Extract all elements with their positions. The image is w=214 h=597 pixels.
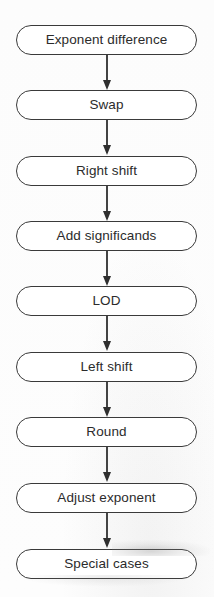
flow-arrow-left-shift-to-round — [0, 382, 214, 418]
flow-node-exponent-difference[interactable]: Exponent difference — [16, 25, 197, 55]
flow-node-label: Round — [86, 425, 126, 439]
flow-node-label: Left shift — [80, 360, 132, 374]
flow-node-label: Special cases — [64, 557, 149, 571]
flow-node-label: Exponent difference — [46, 33, 168, 47]
flow-node-label: Add significands — [57, 229, 157, 243]
flowchart-canvas: Exponent difference Swap Right shift Add… — [0, 0, 214, 597]
flow-node-right-shift[interactable]: Right shift — [16, 156, 197, 186]
flow-node-round[interactable]: Round — [16, 417, 197, 447]
flow-arrow-adjust-exponent-to-special-cases — [0, 513, 214, 549]
flow-arrow-lod-to-left-shift — [0, 316, 214, 352]
flow-arrow-round-to-adjust-exponent — [0, 447, 214, 483]
flow-node-label: Swap — [89, 98, 123, 112]
flow-arrow-right-shift-to-add-significands — [0, 186, 214, 222]
flow-arrow-add-significands-to-lod — [0, 251, 214, 287]
flow-node-add-significands[interactable]: Add significands — [16, 221, 197, 251]
flow-node-label: Right shift — [76, 164, 137, 178]
flow-node-label: LOD — [92, 294, 120, 308]
flow-node-special-cases[interactable]: Special cases — [16, 549, 197, 579]
flow-arrow-exponent-difference-to-swap — [0, 55, 214, 91]
flow-node-lod[interactable]: LOD — [16, 286, 197, 316]
flow-node-adjust-exponent[interactable]: Adjust exponent — [16, 483, 197, 513]
flow-node-left-shift[interactable]: Left shift — [16, 352, 197, 382]
flow-node-swap[interactable]: Swap — [16, 90, 197, 120]
flow-arrow-swap-to-right-shift — [0, 120, 214, 156]
flow-node-label: Adjust exponent — [57, 491, 155, 505]
